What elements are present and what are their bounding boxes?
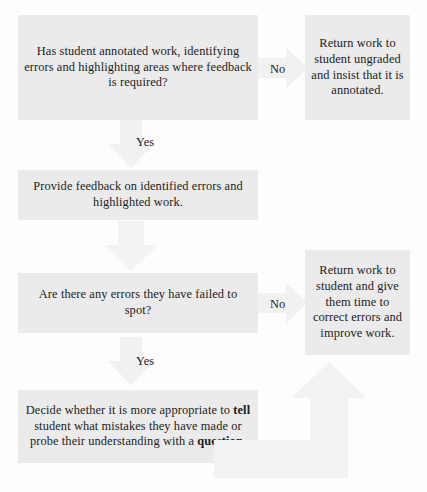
emphasised-term: tell bbox=[233, 403, 250, 417]
node-return-work-to-correct-label: Return work to student and give them tim… bbox=[311, 263, 404, 342]
node-return-work-ungraded: Return work to student ungraded and insi… bbox=[305, 15, 410, 120]
node-are-there-any-errors: Are there any errors they have failed to… bbox=[18, 273, 258, 333]
node-has-student-annotated-work-label: Has student annotated work, identifying … bbox=[24, 44, 252, 92]
node-provide-feedback: Provide feedback on identified errors an… bbox=[18, 170, 258, 220]
node-has-student-annotated-work: Has student annotated work, identifying … bbox=[18, 15, 258, 120]
node-return-work-to-correct: Return work to student and give them tim… bbox=[305, 250, 410, 355]
edge-label-yes-1: Yes bbox=[136, 135, 154, 150]
node-provide-feedback-label: Provide feedback on identified errors an… bbox=[24, 179, 252, 211]
node-are-there-any-errors-label: Are there any errors they have failed to… bbox=[24, 287, 252, 319]
edge-label-yes-2: Yes bbox=[136, 354, 154, 369]
node-decide-tell-or-question: Decide whether it is more appropriate to… bbox=[18, 390, 258, 463]
arrow-feedback-to-errors bbox=[104, 221, 158, 271]
node-return-work-ungraded-label: Return work to student ungraded and insi… bbox=[311, 36, 404, 100]
edge-label-no-2: No bbox=[270, 297, 285, 312]
edge-label-no-1: No bbox=[270, 62, 285, 77]
flowchart-diagram: Has student annotated work, identifying … bbox=[0, 0, 427, 492]
node-decide-tell-or-question-label: Decide whether it is more appropriate to… bbox=[24, 403, 252, 451]
emphasised-term: question bbox=[197, 434, 243, 448]
